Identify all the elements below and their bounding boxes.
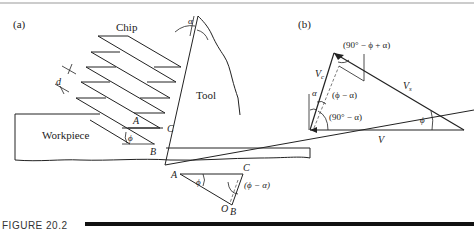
shear-angle-label: ϕ [128, 133, 133, 143]
inset-point-a: A [170, 169, 178, 180]
inset-angle-phi: ϕ [196, 177, 201, 187]
point-c-label: C [167, 123, 174, 134]
phi-arc-b [431, 111, 433, 130]
panel-a: (a) Tool α Chip [13, 16, 474, 217]
panel-a-label: (a) [13, 18, 26, 31]
rake-angle-label: α [188, 16, 193, 26]
point-a-label: A [132, 115, 140, 126]
vector-v-label: V [378, 134, 386, 145]
workpiece-label: Workpiece [42, 129, 89, 141]
tool-label: Tool [196, 89, 216, 101]
angle-alpha-label: α [312, 88, 317, 98]
figure-caption: FIGURE 20.2 [2, 220, 68, 231]
spacing-label: d [56, 76, 62, 87]
point-b-label: B [150, 146, 156, 157]
inset-point-b: B [230, 206, 236, 217]
chip-label: Chip [116, 21, 138, 33]
figure-20-2: (a) Tool α Chip [0, 0, 474, 234]
angle-top-label: (90° − ϕ + α) [343, 40, 390, 50]
panel-b: (b) V Vs Vc (90° − ϕ + α) α (ϕ − α) (90°… [298, 18, 464, 145]
vector-vs-label: Vs [403, 80, 412, 93]
angle-phi-minus-alpha-label: (ϕ − α) [332, 90, 357, 100]
angle-90-minus-alpha-label: (90° − α) [329, 112, 362, 122]
vector-vc-arrowhead [334, 53, 344, 60]
inset-triangle: A C O B ϕ (ϕ − α) [170, 162, 270, 217]
inset-point-c: C [243, 162, 250, 173]
alpha-arc [310, 109, 317, 110]
panel-b-label: (b) [298, 18, 311, 31]
caption-rule [85, 222, 474, 226]
inset-angle-phi-minus-alpha: (ϕ − α) [244, 180, 270, 190]
tool-flank [165, 110, 474, 165]
inset-point-o: O [221, 203, 228, 214]
rake-angle-arc-right [197, 30, 208, 40]
angle-phi-label: ϕ [420, 115, 425, 125]
vector-vc-label: Vc [315, 68, 325, 81]
